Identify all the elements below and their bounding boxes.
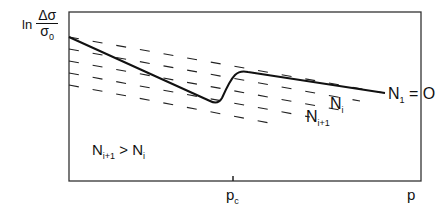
cond-left-main: N (92, 141, 103, 158)
den-sub: 0 (49, 32, 54, 42)
x-axis-label: p (407, 186, 415, 203)
dashed-line-ni (69, 61, 340, 110)
y-axis-denominator: σ0 (40, 24, 54, 41)
y-axis-numerator: Δσ (36, 8, 58, 24)
condition-label: Ni+1 > Ni (92, 141, 145, 158)
dashed-line-5 (69, 85, 280, 125)
ni1-sub: i+1 (318, 118, 330, 128)
y-axis-label: ln Δσ σ0 (22, 8, 58, 41)
den-main: σ (40, 23, 49, 39)
y-axis-ln: ln (22, 17, 32, 32)
ni1-main: N (306, 108, 318, 125)
dashed-line-ni1 (69, 73, 310, 117)
ni-main: N (330, 95, 342, 112)
n1-suffix: = O (405, 85, 436, 102)
diagram-canvas (0, 0, 444, 211)
cond-right-sub: i (143, 151, 145, 161)
x-tick-pc: pc (226, 186, 239, 203)
dashed-line-n1 (69, 37, 385, 93)
cond-left-sub: i+1 (103, 151, 115, 161)
label-ni1: Ni+1 (306, 108, 330, 126)
n1-sub: 1 (400, 95, 405, 105)
cond-right-main: N (132, 141, 143, 158)
label-n1: N1 = O (388, 85, 435, 103)
y-axis-fraction: Δσ σ0 (36, 8, 58, 41)
n1-main: N (388, 85, 400, 102)
ni-sub: i (342, 105, 344, 115)
label-ni: Ni (330, 95, 344, 113)
pc-sub: c (234, 196, 239, 206)
cond-op: > (115, 141, 132, 158)
